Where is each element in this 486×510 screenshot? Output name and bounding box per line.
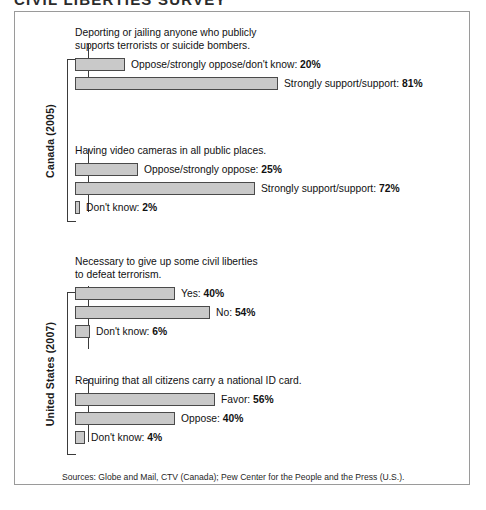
bar-label-text: Favor:: [221, 394, 253, 405]
bar: [75, 325, 90, 338]
bar-value-text: 40%: [223, 413, 244, 424]
bar: [75, 412, 175, 425]
bar: [75, 77, 278, 90]
bar-row: Don't know: 2%: [75, 198, 400, 217]
question-civil-liberties: Necessary to give up some civil libertie…: [75, 255, 258, 341]
question-national-id-card: Requiring that all citizens carry a nati…: [75, 374, 302, 447]
bar-label: Oppose/strongly oppose/don't know: 20%: [131, 59, 321, 70]
bar-value-text: 40%: [204, 288, 225, 299]
bar-label: Don't know: 6%: [96, 326, 167, 337]
bar-label: Strongly support/support: 81%: [284, 78, 423, 89]
bar-row: Oppose: 40%: [75, 409, 302, 428]
bar: [75, 306, 210, 319]
bar-value-text: 81%: [402, 78, 423, 89]
bar-row: Yes: 40%: [75, 284, 258, 303]
bar-label: Don't know: 2%: [86, 202, 157, 213]
bar-value-text: 54%: [235, 307, 256, 318]
bar-row: Oppose/strongly oppose/don't know: 20%: [75, 55, 423, 74]
bar-row: Oppose/strongly oppose: 25%: [75, 160, 400, 179]
bar-label: Don't know: 4%: [91, 432, 162, 443]
question-title-video-cameras: Having video cameras in all public place…: [75, 144, 400, 157]
bar: [75, 182, 255, 195]
bar-label-text: Oppose/strongly oppose:: [144, 164, 261, 175]
bar-label: Yes: 40%: [181, 288, 224, 299]
question-title-civil-liberties: Necessary to give up some civil libertie…: [75, 255, 258, 281]
bar-label: Oppose/strongly oppose: 25%: [144, 164, 282, 175]
bar: [75, 163, 138, 176]
bar-row: Don't know: 4%: [75, 428, 302, 447]
bar-label-text: No:: [216, 307, 235, 318]
group-label-canada: Canada (2005): [37, 59, 63, 222]
group-label-united-states-text: United States (2007): [44, 321, 56, 425]
bar-label-text: Strongly support/support:: [284, 78, 402, 89]
sources-note: Sources: Globe and Mail, CTV (Canada); P…: [62, 472, 404, 482]
bar-label-text: Oppose:: [181, 413, 223, 424]
bar-value-text: 4%: [147, 432, 162, 443]
bar-row: Strongly support/support: 72%: [75, 179, 400, 198]
bar: [75, 287, 175, 300]
bar: [75, 58, 125, 71]
bar-value-text: 2%: [142, 202, 157, 213]
bar-label-text: Strongly support/support:: [261, 183, 379, 194]
bar-label-text: Don't know:: [86, 202, 142, 213]
bar: [75, 393, 215, 406]
bar-label: No: 54%: [216, 307, 256, 318]
bar-label-text: Oppose/strongly oppose/don't know:: [131, 59, 300, 70]
chart-frame: Canada (2005) Deporting or jailing anyon…: [14, 11, 470, 485]
bar-row: No: 54%: [75, 303, 258, 322]
question-video-cameras: Having video cameras in all public place…: [75, 144, 400, 217]
bar-label-text: Yes:: [181, 288, 204, 299]
bar: [75, 201, 80, 214]
bar-value-text: 25%: [261, 164, 282, 175]
question-title-national-id-card: Requiring that all citizens carry a nati…: [75, 374, 302, 387]
bar-value-text: 6%: [152, 326, 167, 337]
bar-label-text: Don't know:: [96, 326, 152, 337]
group-label-united-states: United States (2007): [37, 292, 63, 455]
group-label-canada-text: Canada (2005): [44, 104, 56, 178]
bar-label: Favor: 56%: [221, 394, 274, 405]
bar-row: Favor: 56%: [75, 390, 302, 409]
cut-off-title: CIVIL LIBERTIES SURVEY: [14, 0, 227, 5]
bar-value-text: 72%: [379, 183, 400, 194]
bar-label: Oppose: 40%: [181, 413, 243, 424]
bar-row: Strongly support/support: 81%: [75, 74, 423, 93]
bar: [75, 431, 85, 444]
bar-row: Don't know: 6%: [75, 322, 258, 341]
question-deport-jail: Deporting or jailing anyone who publicly…: [75, 26, 423, 93]
bar-label-text: Don't know:: [91, 432, 147, 443]
bar-value-text: 20%: [300, 59, 321, 70]
bar-value-text: 56%: [253, 394, 274, 405]
bar-label: Strongly support/support: 72%: [261, 183, 400, 194]
question-title-deport-jail: Deporting or jailing anyone who publicly…: [75, 26, 423, 52]
